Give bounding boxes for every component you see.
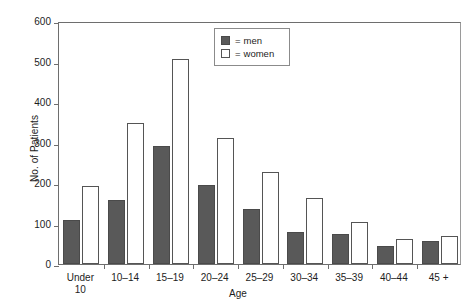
- x-tick-mark: [104, 264, 105, 269]
- y-tick-label: 300: [34, 138, 51, 150]
- y-tick: 600: [32, 23, 59, 24]
- bar-men-2: [153, 146, 170, 264]
- y-tick-label: 600: [34, 16, 51, 28]
- bar-women-0: [82, 186, 99, 264]
- legend-label: men: [244, 35, 262, 46]
- bar-women-8: [441, 236, 458, 264]
- y-tick-mark: [54, 23, 59, 24]
- bar-women-4: [262, 172, 279, 264]
- y-tick-mark: [54, 226, 59, 227]
- y-tick: 200: [32, 185, 59, 186]
- bar-men-5: [287, 232, 304, 264]
- legend-swatch-women-icon: [221, 49, 230, 58]
- legend-item-men: =men: [221, 34, 283, 47]
- bar-men-1: [108, 200, 125, 264]
- y-tick-label: 100: [34, 219, 51, 231]
- y-tick-mark: [54, 64, 59, 65]
- y-tick-mark: [54, 145, 59, 146]
- y-tick-mark: [54, 104, 59, 105]
- bar-men-7: [377, 246, 394, 264]
- bar-men-0: [63, 220, 80, 264]
- y-tick-label: 0: [45, 259, 51, 271]
- y-tick: 500: [32, 64, 59, 65]
- x-tick-mark: [372, 264, 373, 269]
- x-tick-mark: [149, 264, 150, 269]
- y-tick-mark: [54, 185, 59, 186]
- x-tick-mark: [238, 264, 239, 269]
- bar-men-8: [422, 241, 439, 264]
- legend-equals-sign: =: [235, 35, 241, 46]
- bar-women-5: [306, 198, 323, 264]
- bar-men-3: [198, 185, 215, 264]
- x-tick-mark: [328, 264, 329, 269]
- bar-women-6: [351, 222, 368, 264]
- y-tick: 300: [32, 145, 59, 146]
- bar-women-1: [127, 123, 144, 264]
- bar-men-4: [243, 209, 260, 264]
- chart-legend: =men=women: [214, 28, 290, 66]
- y-tick: 400: [32, 104, 59, 105]
- x-tick-label: 45 +: [409, 272, 469, 284]
- bar-women-7: [396, 239, 413, 265]
- legend-swatch-men-icon: [221, 36, 230, 45]
- y-tick-label: 500: [34, 57, 51, 69]
- bar-chart: No. of Patients Age 0100200300400500600 …: [0, 0, 476, 307]
- bar-women-3: [217, 138, 234, 264]
- x-tick-mark: [283, 264, 284, 269]
- legend-equals-sign: =: [235, 48, 241, 59]
- y-tick-mark: [54, 266, 59, 267]
- legend-item-women: =women: [221, 47, 283, 60]
- y-tick-label: 200: [34, 178, 51, 190]
- y-tick: 0: [32, 266, 59, 267]
- bar-women-2: [172, 59, 189, 264]
- legend-label: women: [244, 48, 275, 59]
- bar-men-6: [332, 234, 349, 264]
- y-tick-label: 400: [34, 97, 51, 109]
- x-tick-mark: [417, 264, 418, 269]
- y-tick: 100: [32, 226, 59, 227]
- x-tick-mark: [193, 264, 194, 269]
